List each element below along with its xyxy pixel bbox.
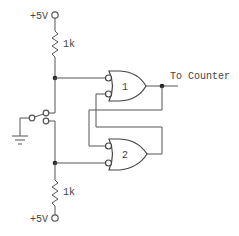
switch-upper-contact-icon <box>43 110 49 116</box>
gate-1: 1 <box>106 71 147 101</box>
resistor-top-label: 1k <box>63 39 75 50</box>
wire <box>20 118 29 136</box>
ground-icon <box>12 136 28 144</box>
circuit-diagram: +5V 1k 1k +5V 1 To Count <box>0 0 239 236</box>
gate-1-input-a-bubble-icon <box>106 75 112 81</box>
supply-bottom-label: +5V <box>30 214 48 225</box>
output-label: To Counter <box>170 71 230 82</box>
resistor-top-icon <box>52 31 58 57</box>
resistor-bottom-icon <box>52 180 58 206</box>
gate-2-label: 2 <box>122 150 128 161</box>
resistor-bottom-label: 1k <box>63 187 75 198</box>
switch-arm-icon <box>35 114 44 117</box>
supply-bottom-terminal-icon <box>52 215 58 221</box>
switch <box>29 110 49 124</box>
supply-top: +5V <box>30 11 58 22</box>
switch-pivot-icon <box>29 115 35 121</box>
gate-2-input-a-bubble-icon <box>106 143 112 149</box>
wire <box>49 121 55 163</box>
supply-top-terminal-icon <box>52 12 58 18</box>
gate-2-input-b-bubble-icon <box>106 160 112 166</box>
gate-2: 2 <box>106 139 148 170</box>
gate-1-label: 1 <box>122 82 128 93</box>
gate-1-input-b-bubble-icon <box>106 91 112 97</box>
switch-lower-contact-icon <box>43 118 49 124</box>
supply-bottom: +5V <box>30 214 58 225</box>
supply-top-label: +5V <box>30 11 48 22</box>
